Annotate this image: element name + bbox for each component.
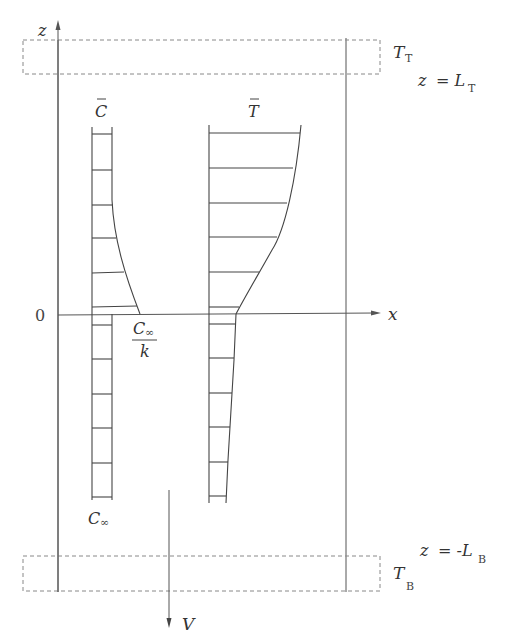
svg-text:T: T: [248, 102, 260, 121]
boundary-layer-diagram: z x 0 C T C ∞ k C ∞ T T z = L T z = -L B…: [0, 0, 505, 642]
svg-text:T: T: [405, 52, 413, 65]
svg-text:B: B: [478, 553, 486, 566]
svg-text:C: C: [133, 319, 145, 338]
concentration-profile: [92, 127, 140, 500]
svg-text:T: T: [468, 82, 476, 95]
down-arrow-icon: [167, 618, 172, 628]
top-boundary-equation: z = L T: [417, 71, 476, 95]
c-inf-bottom-label: C ∞: [88, 509, 109, 529]
c-bar-label: C: [95, 99, 107, 121]
z-axis-label: z: [37, 21, 47, 40]
z-axis-arrow-icon: [56, 20, 61, 30]
svg-text:∞: ∞: [100, 516, 109, 529]
svg-text:B: B: [406, 580, 414, 593]
velocity-label: V: [182, 614, 196, 634]
svg-text:C: C: [88, 509, 100, 528]
z-axis: [56, 20, 61, 592]
t-bar-label: T: [248, 99, 260, 121]
x-axis-label: x: [388, 304, 398, 324]
velocity-arrow: [167, 490, 172, 628]
svg-text:k: k: [140, 342, 150, 361]
top-boundary-layer-box: [23, 40, 380, 74]
x-axis-arrow-icon: [371, 311, 381, 316]
svg-text:z: z: [419, 541, 429, 560]
svg-text:C: C: [95, 102, 107, 121]
svg-text:= L: = L: [436, 71, 465, 90]
bottom-boundary-layer-box: [23, 556, 380, 591]
origin-label: 0: [35, 306, 45, 325]
top-boundary-temp-label: T T: [393, 42, 413, 65]
bottom-boundary-temp-label: T B: [393, 563, 414, 593]
x-axis: [58, 311, 381, 316]
svg-text:z: z: [417, 71, 427, 90]
bottom-boundary-equation: z = -L B: [419, 541, 486, 566]
svg-text:∞: ∞: [145, 326, 154, 339]
c-inf-over-k-label: C ∞ k: [132, 319, 157, 361]
svg-text:= -L: = -L: [438, 541, 473, 560]
svg-text:T: T: [393, 563, 406, 583]
